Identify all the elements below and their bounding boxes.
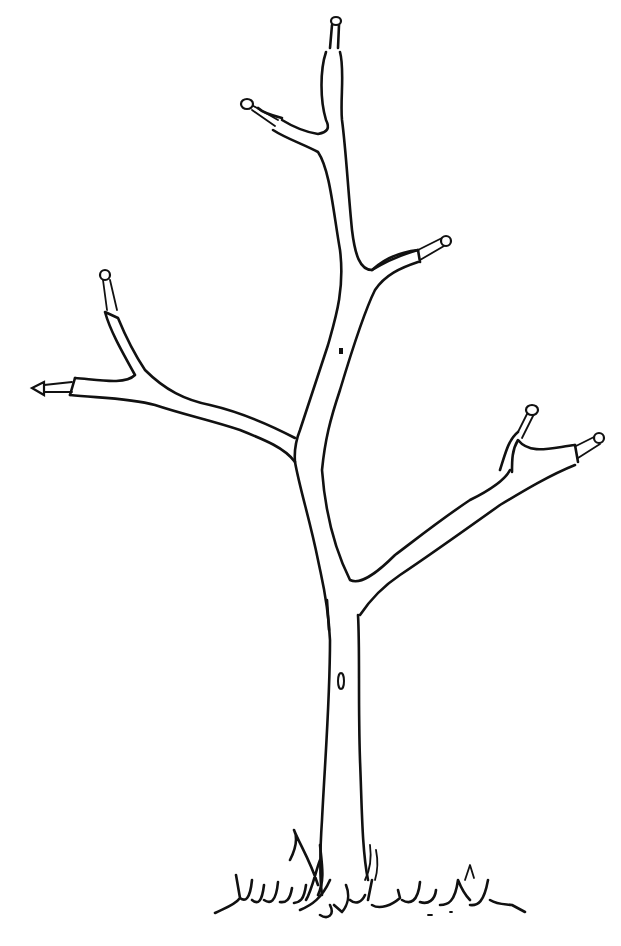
grass-tufts — [215, 830, 525, 917]
right-fork-inner — [500, 432, 575, 472]
left-branch-upper-outline — [75, 312, 295, 438]
cut-tip-top — [331, 17, 341, 25]
left-branch-stub-vertical — [103, 280, 117, 310]
cut-tip-left-upper — [100, 270, 110, 280]
cut-tip-right-upper — [526, 405, 538, 415]
bark-shade — [327, 600, 329, 630]
trunk-left-outline — [282, 52, 328, 134]
trunk-right-base-outline — [360, 465, 575, 615]
left-branch-lower-outline — [70, 395, 295, 462]
trunk-base-right — [358, 615, 368, 880]
right-fork-collar — [575, 445, 578, 462]
cut-tip-upper-left — [241, 99, 253, 109]
left-branch-stub-horizontal — [44, 382, 72, 392]
leader-left-outline — [273, 130, 341, 895]
tree-drawing — [0, 0, 621, 946]
cut-tip-upper-right — [441, 236, 451, 246]
trunk-right-outline — [340, 52, 418, 270]
cut-tip-left-pointed — [32, 382, 44, 395]
bark-mark-upper — [339, 348, 343, 354]
cut-tip-right-outer — [594, 433, 604, 443]
tree-illustration: Line drawing of a young pruned tree with… — [0, 0, 621, 946]
bark-knot-lower — [338, 673, 344, 689]
trunk-right-lower-outline — [322, 262, 510, 581]
top-leader-stub — [330, 25, 339, 48]
